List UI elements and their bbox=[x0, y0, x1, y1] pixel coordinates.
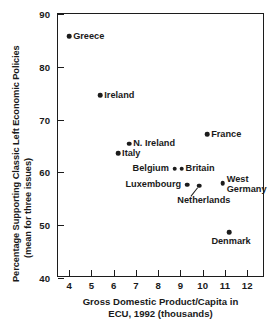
plot-area: 405060708090456789101112GreeceIrelandN. … bbox=[57, 13, 264, 277]
data-label-luxembourg: Luxembourg bbox=[125, 179, 181, 190]
y-axis-title-line1: Percentage Supporting Classic Left Econo… bbox=[11, 45, 21, 282]
x-tick-label-9: 9 bbox=[178, 280, 183, 291]
y-tick-40 bbox=[58, 278, 64, 279]
y-tick-label-40: 40 bbox=[39, 273, 50, 284]
data-point-britain bbox=[179, 166, 184, 171]
x-tick-4 bbox=[69, 270, 70, 276]
x-tick-7 bbox=[136, 270, 137, 276]
y-tick-label-80: 80 bbox=[39, 61, 50, 72]
scatter-chart-figure: Percentage Supporting Classic Left Econo… bbox=[0, 0, 279, 332]
x-tick-label-5: 5 bbox=[89, 280, 94, 291]
data-point-belgium bbox=[173, 166, 178, 171]
x-tick-label-4: 4 bbox=[66, 280, 71, 291]
caption-cropped bbox=[18, 325, 268, 332]
y-tick-60 bbox=[58, 172, 64, 173]
data-point-denmark bbox=[227, 230, 232, 235]
y-tick-80 bbox=[58, 67, 64, 68]
x-tick-label-7: 7 bbox=[133, 280, 138, 291]
y-axis-title-line2: (mean for three issues) bbox=[23, 158, 33, 258]
y-tick-label-50: 50 bbox=[39, 220, 50, 231]
data-label-west-germany: WestGermany bbox=[227, 174, 267, 194]
x-tick-label-12: 12 bbox=[242, 280, 253, 291]
data-label-denmark: Denmark bbox=[211, 236, 250, 247]
x-tick-8 bbox=[158, 270, 159, 276]
y-tick-90 bbox=[58, 14, 64, 15]
data-label-belgium: Belgium bbox=[133, 163, 169, 174]
data-label-britain: Britain bbox=[186, 163, 215, 174]
data-label-netherlands: Netherlands bbox=[177, 195, 230, 206]
data-label-italy: Italy bbox=[122, 148, 140, 159]
y-tick-label-90: 90 bbox=[39, 9, 50, 20]
data-label-france: France bbox=[211, 129, 241, 140]
y-tick-label-60: 60 bbox=[39, 167, 50, 178]
data-point-luxembourg bbox=[185, 182, 190, 187]
data-point-italy bbox=[116, 151, 121, 156]
data-point-ireland bbox=[98, 93, 103, 98]
y-tick-70 bbox=[58, 120, 64, 121]
x-tick-label-8: 8 bbox=[155, 280, 160, 291]
x-tick-10 bbox=[203, 270, 204, 276]
data-point-greece bbox=[67, 34, 72, 39]
data-label-greece: Greece bbox=[73, 31, 104, 42]
y-tick-label-70: 70 bbox=[39, 114, 50, 125]
x-tick-12 bbox=[247, 270, 248, 276]
x-axis-title: Gross Domestic Product/Capita in ECU, 19… bbox=[57, 296, 264, 319]
x-tick-label-10: 10 bbox=[197, 280, 208, 291]
x-axis-title-line1: Gross Domestic Product/Capita in bbox=[57, 296, 264, 308]
x-tick-label-6: 6 bbox=[111, 280, 116, 291]
x-tick-11 bbox=[225, 270, 226, 276]
data-point-france bbox=[205, 132, 210, 137]
x-tick-label-11: 11 bbox=[220, 280, 230, 291]
x-axis-title-line2: ECU, 1992 (thousands) bbox=[57, 308, 264, 320]
data-point-n-ireland bbox=[127, 142, 132, 147]
y-tick-50 bbox=[58, 225, 64, 226]
data-label-ireland: Ireland bbox=[104, 90, 134, 101]
y-axis-title: Percentage Supporting Classic Left Econo… bbox=[0, 0, 34, 290]
x-tick-9 bbox=[180, 270, 181, 276]
x-tick-5 bbox=[91, 270, 92, 276]
data-point-west-germany bbox=[220, 181, 225, 186]
x-tick-6 bbox=[114, 270, 115, 276]
